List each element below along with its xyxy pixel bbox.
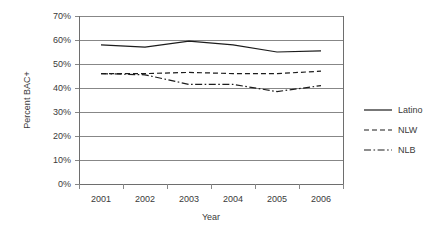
x-tick-label-2001: 2001 (91, 194, 111, 204)
x-tick-label-2004: 2004 (223, 194, 243, 204)
y-tick-label-0: 0% (58, 179, 71, 189)
legend-label-nlw: NLW (398, 125, 418, 135)
x-tick-label-2005: 2005 (267, 194, 287, 204)
y-axis-title: Percent BAC+ (22, 71, 32, 128)
x-axis-title: Year (202, 212, 220, 222)
y-tick-label-50: 50% (53, 59, 71, 69)
line-chart: 70% 60% 50% 40% 30% 20% 10% 0% 2001 2002… (0, 0, 438, 235)
y-tick-label-40: 40% (53, 83, 71, 93)
y-tick-label-60: 60% (53, 35, 71, 45)
y-tick-label-20: 20% (53, 131, 71, 141)
x-tick-label-2003: 2003 (179, 194, 199, 204)
x-tick-label-2002: 2002 (135, 194, 155, 204)
y-tick-label-30: 30% (53, 107, 71, 117)
legend-label-nlb: NLB (398, 145, 416, 155)
legend-label-latino: Latino (398, 105, 423, 115)
y-tick-label-70: 70% (53, 11, 71, 21)
x-tick-label-2006: 2006 (311, 194, 331, 204)
y-tick-label-10: 10% (53, 155, 71, 165)
